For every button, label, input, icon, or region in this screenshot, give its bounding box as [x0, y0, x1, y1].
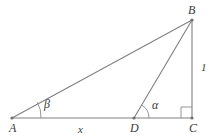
figure-canvas [0, 0, 214, 139]
vertex-dot-d [132, 116, 135, 119]
vertex-label-c: C [189, 122, 197, 134]
vertex-label-b: B [188, 4, 195, 16]
segment-db [134, 20, 192, 118]
vertex-label-d: D [130, 122, 139, 134]
vertex-dot-a [10, 116, 13, 119]
right-angle-marker-c [181, 107, 192, 118]
geometry-figure: A B C D β α x 1 [0, 0, 214, 139]
vertex-dot-c [190, 116, 193, 119]
segment-ab [12, 20, 192, 118]
angle-label-alpha: α [152, 99, 158, 111]
angle-arc-beta [37, 102, 41, 118]
angle-label-beta: β [44, 98, 50, 110]
length-label-one: 1 [201, 62, 207, 73]
vertex-dot-b [190, 18, 193, 21]
angle-arc-alpha [142, 105, 149, 118]
length-label-x: x [78, 124, 83, 135]
vertex-label-a: A [9, 122, 16, 134]
